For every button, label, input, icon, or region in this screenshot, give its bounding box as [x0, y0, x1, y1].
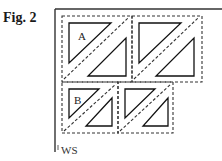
block-2 [132, 16, 202, 82]
ws-label: WS [61, 144, 78, 156]
block-4 [118, 82, 173, 133]
block-b: B [62, 82, 118, 133]
quilt-diagram: A B WS [0, 0, 222, 161]
block-a-label: A [78, 30, 86, 42]
block-b-label: B [74, 94, 81, 106]
block-a: A [62, 16, 132, 82]
